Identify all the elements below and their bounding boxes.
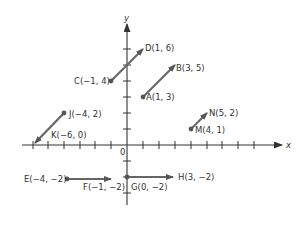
point-label-d: D(1, 6) (145, 44, 174, 53)
point-label-c: C(−1, 4) (74, 77, 110, 86)
point-label-m: M(4, 1) (195, 126, 225, 135)
vector-cd (109, 49, 143, 83)
point-label-k: K(−6, 0) (51, 131, 87, 140)
origin-label: 0 (120, 148, 125, 157)
point-label-j: J(−4, 2) (69, 110, 101, 119)
coordinate-plane (0, 0, 298, 226)
point-label-g: G(0, −2) (131, 183, 168, 192)
point-label-h: H(3, −2) (178, 173, 214, 182)
point-label-a: A(1, 3) (146, 93, 175, 102)
vector-ef (65, 177, 111, 182)
point-label-e: E(−4, −2) (24, 175, 66, 184)
point-label-b: B(3, 5) (176, 64, 205, 73)
vector-gh (125, 175, 173, 180)
y-axis-label: y (124, 14, 129, 23)
point-label-n: N(5, 2) (209, 109, 238, 118)
x-axis-label: x (286, 141, 291, 150)
point-label-f: F(−1, −2) (83, 183, 125, 192)
